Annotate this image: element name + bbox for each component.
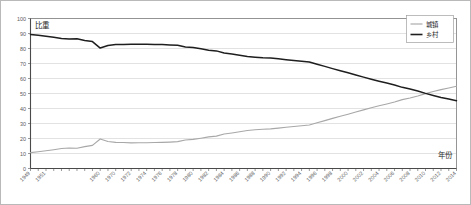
x-axis-tick-label: 2002 bbox=[352, 170, 365, 183]
y-axis-tick-label: 70 bbox=[20, 61, 26, 67]
y-axis-tick-label: 100 bbox=[17, 16, 26, 22]
series-line-urban bbox=[31, 86, 457, 152]
line-chart: 0102030405060708090100 19491951196019701… bbox=[1, 1, 471, 205]
y-axis-tick-label: 80 bbox=[20, 46, 26, 52]
x-axis-tick-label: 1980 bbox=[181, 170, 194, 183]
x-axis-tick-label: 2010 bbox=[413, 170, 426, 183]
x-axis-tick-label: 1988 bbox=[243, 170, 256, 183]
x-axis-tick-label: 2000 bbox=[336, 170, 349, 183]
x-axis-tick-label: 1978 bbox=[166, 170, 179, 183]
y-axis-tick-label: 90 bbox=[20, 31, 26, 37]
y-axis-tick-label: 20 bbox=[20, 136, 26, 142]
x-axis-tick-label: 1974 bbox=[135, 170, 148, 183]
legend: 城镇乡村 bbox=[407, 16, 454, 43]
x-axis-tick-label: 1998 bbox=[321, 170, 334, 183]
legend-label: 城镇 bbox=[426, 20, 439, 29]
y-axis-tick-label: 50 bbox=[20, 91, 26, 97]
x-axis-tick-label: 1960 bbox=[88, 170, 101, 183]
x-axis-tick-label: 2006 bbox=[383, 170, 396, 183]
x-axis-tick-label: 2012 bbox=[429, 170, 442, 183]
y-axis-tick-label: 60 bbox=[20, 76, 26, 82]
x-axis-tick-label: 2014 bbox=[444, 170, 457, 183]
x-axis-tick-label: 2008 bbox=[398, 170, 411, 183]
y-axis-title: 比重 bbox=[35, 20, 50, 30]
series-line-rural bbox=[31, 34, 457, 100]
x-axis-tick-label: 1986 bbox=[228, 170, 241, 183]
x-axis-tick-label: 1992 bbox=[274, 170, 287, 183]
x-axis-tick-label: 1996 bbox=[305, 170, 318, 183]
x-axis-tick-labels: 1949195119601970197219741976197819801982… bbox=[18, 170, 457, 183]
y-axis-tick-label: 40 bbox=[20, 106, 26, 112]
y-axis-tick-label: 10 bbox=[20, 151, 26, 157]
x-axis-tick-label: 1990 bbox=[259, 170, 272, 183]
x-axis-tick-label: 1970 bbox=[104, 170, 117, 183]
chart-container: 0102030405060708090100 19491951196019701… bbox=[0, 0, 471, 205]
x-axis-tick-label: 1951 bbox=[34, 170, 47, 183]
x-axis-tick-label: 2004 bbox=[367, 170, 380, 183]
y-axis-tick-labels: 0102030405060708090100 bbox=[17, 16, 26, 172]
y-axis-tick-label: 30 bbox=[20, 121, 26, 127]
x-axis-title: 年份 bbox=[438, 150, 453, 160]
legend-label: 乡村 bbox=[426, 30, 439, 39]
x-axis-tick-label: 1994 bbox=[290, 170, 303, 183]
x-axis-tick-label: 1982 bbox=[197, 170, 210, 183]
x-axis-tick-label: 1949 bbox=[18, 170, 31, 183]
gridlines bbox=[31, 19, 457, 154]
x-axis-tick-label: 1984 bbox=[212, 170, 225, 183]
x-axis-tick-label: 1976 bbox=[150, 170, 163, 183]
x-axis-tick-label: 1972 bbox=[119, 170, 132, 183]
